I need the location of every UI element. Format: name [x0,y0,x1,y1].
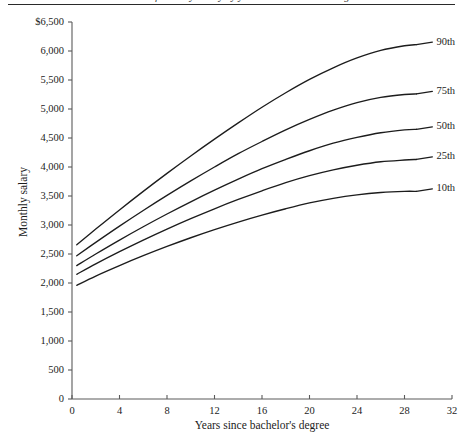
y-axis-tick-label: 2,500 [40,249,64,260]
x-axis-tick-label: 12 [195,404,235,417]
x-axis-tick-label: 20 [290,404,330,417]
y-axis-tick-label: 5,000 [40,104,64,115]
chart-plot-area [0,0,463,437]
series-label-10th: 10th [436,182,455,193]
x-axis-tick-label: 0 [52,404,92,417]
x-axis-tick-label: 8 [147,404,187,417]
x-axis-tick-label: 4 [100,404,140,417]
figure-panel: Percentiles of monthly salary by years s… [0,0,463,437]
series-leader-line [416,42,432,45]
y-axis-tick-label: 4,000 [40,162,64,173]
series-line [77,159,417,274]
y-axis-tick-label: 500 [48,365,64,376]
y-axis-tick-label: 6,000 [40,46,64,57]
y-axis-tick-label: 4,500 [40,133,64,144]
series-label-75th: 75th [436,85,455,96]
x-axis-tick-label: 28 [385,404,425,417]
y-axis-tick-label: 3,000 [40,220,64,231]
y-axis-tick-label: 2,000 [40,278,64,289]
y-axis-tick-label: 0 [59,394,64,405]
y-axis-title: Monthly salary [17,142,29,262]
y-axis-tick-label: $6,500 [35,17,64,28]
series-line [77,191,417,285]
series-label-50th: 50th [436,120,455,131]
y-axis-tick-label: 1,000 [40,336,64,347]
y-axis-tick-label: 5,500 [40,75,64,86]
series-line [77,45,417,245]
series-leader-line [416,91,432,94]
x-axis-title: Years since bachelor's degree [72,419,452,431]
series-label-90th: 90th [436,36,455,47]
series-leader-line [416,189,432,192]
y-axis-tick-label: 3,500 [40,191,64,202]
series-label-25th: 25th [436,150,455,161]
x-axis-tick-label: 16 [242,404,282,417]
y-axis-tick-label: 1,500 [40,307,64,318]
series-leader-line [416,127,432,130]
x-axis-tick-label: 32 [432,404,463,417]
x-axis-tick-label: 24 [337,404,377,417]
series-leader-line [416,157,432,160]
